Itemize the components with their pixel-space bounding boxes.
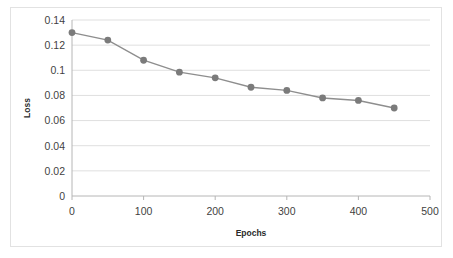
data-point-marker <box>212 74 219 81</box>
x-tick-label: 400 <box>350 205 368 217</box>
data-point-marker <box>283 87 290 94</box>
x-tick-label: 500 <box>421 205 439 217</box>
y-tick-label: 0.08 <box>45 89 66 101</box>
y-tick-label: 0 <box>59 190 65 202</box>
y-tick-label: 0.06 <box>45 114 66 126</box>
y-tick-label: 0.12 <box>45 39 66 51</box>
data-point-marker <box>248 84 255 91</box>
data-point-marker <box>104 37 111 44</box>
x-tick-label: 100 <box>135 205 153 217</box>
data-point-marker <box>140 57 147 64</box>
x-axis-title: Epochs <box>236 228 267 238</box>
x-tick-label: 300 <box>278 205 296 217</box>
y-tick-label: 0.14 <box>45 14 66 26</box>
x-tick-label: 200 <box>206 205 224 217</box>
y-tick-label: 0.02 <box>45 165 66 177</box>
line-chart: 00.020.040.060.080.10.120.14 01002003004… <box>11 8 443 248</box>
x-tick-label: 0 <box>69 205 75 217</box>
axes-group <box>72 20 430 196</box>
x-tick-labels-group: 0100200300400500 <box>69 205 439 217</box>
data-point-marker <box>355 97 362 104</box>
data-point-marker <box>176 69 183 76</box>
gridlines-group <box>72 20 430 171</box>
data-point-marker <box>69 29 76 36</box>
y-tick-labels-group: 00.020.040.060.080.10.120.14 <box>45 14 66 202</box>
data-point-marker <box>319 95 326 102</box>
y-tick-label: 0.1 <box>50 64 65 76</box>
chart-frame: 00.020.040.060.080.10.120.14 01002003004… <box>10 7 442 247</box>
data-point-marker <box>391 105 398 112</box>
y-tick-label: 0.04 <box>45 140 66 152</box>
y-axis-title: Loss <box>22 98 32 118</box>
x-tick-marks-group <box>72 196 430 200</box>
